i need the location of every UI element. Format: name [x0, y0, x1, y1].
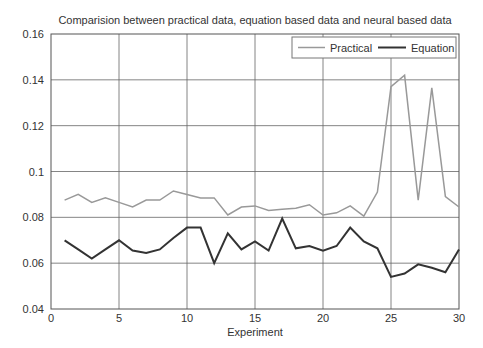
chart-title: Comparision between practical data, equa… [58, 14, 452, 26]
axis-ticks: 0510152025300.040.060.080.10.120.140.16 [23, 28, 466, 324]
legend: Practical Equation [292, 37, 456, 58]
series-group [65, 75, 460, 277]
series-line-practical [65, 75, 459, 216]
x-axis-label: Experiment [227, 326, 283, 338]
line-chart: Comparision between practical data, equa… [0, 0, 483, 348]
y-tick-label: 0.06 [23, 257, 44, 269]
y-tick-label: 0.12 [23, 120, 44, 132]
x-tick-label: 5 [116, 312, 122, 324]
y-tick-label: 0.1 [29, 166, 44, 178]
x-tick-label: 25 [385, 312, 397, 324]
legend-label-equation: Equation [411, 42, 454, 54]
x-tick-label: 10 [181, 312, 193, 324]
y-tick-label: 0.16 [23, 28, 44, 40]
x-tick-label: 0 [48, 312, 54, 324]
series-line-equation [65, 219, 459, 277]
y-tick-label: 0.08 [23, 211, 44, 223]
y-tick-label: 0.14 [23, 74, 44, 86]
legend-label-practical: Practical [330, 42, 372, 54]
x-tick-label: 20 [317, 312, 329, 324]
x-tick-label: 30 [453, 312, 465, 324]
x-tick-label: 15 [249, 312, 261, 324]
grid [51, 34, 459, 309]
y-tick-label: 0.04 [23, 303, 44, 315]
